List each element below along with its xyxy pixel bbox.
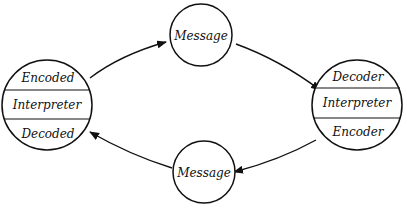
arrow-bottom-message-to-left xyxy=(90,132,172,168)
right-node-top-label: Decoder xyxy=(331,70,384,84)
right-node-middle-label: Interpreter xyxy=(322,96,393,110)
left-interpreter-node: Encoded Interpreter Decoded xyxy=(2,60,92,150)
left-node-top-label: Encoded xyxy=(21,71,75,85)
right-interpreter-node: Decoder Interpreter Encoder xyxy=(312,60,402,150)
arrow-right-to-bottom-message xyxy=(234,140,316,172)
arrow-left-to-top-message xyxy=(90,42,166,78)
top-message-label: Message xyxy=(173,29,228,43)
left-node-middle-label: Interpreter xyxy=(12,98,83,112)
left-node-bottom-label: Decoded xyxy=(20,127,74,141)
top-message-node: Message xyxy=(170,4,232,66)
right-node-bottom-label: Encoder xyxy=(332,125,385,139)
communication-diagram: Encoded Interpreter Decoded Decoder Inte… xyxy=(0,0,407,208)
arrow-top-message-to-right xyxy=(236,44,320,90)
bottom-message-label: Message xyxy=(176,166,231,180)
bottom-message-node: Message xyxy=(173,141,235,203)
